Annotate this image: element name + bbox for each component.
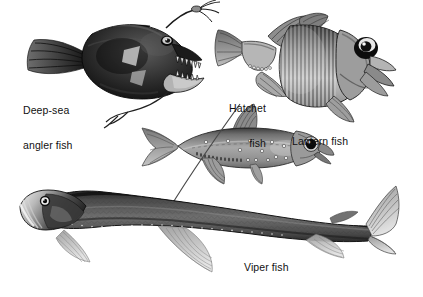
label-angler-line-2: angler fish <box>23 140 73 152</box>
hatchet-peduncle <box>242 41 276 70</box>
label-lantern-fish: Lantern fish <box>292 113 348 171</box>
angler-eye <box>161 36 173 46</box>
angler-illicium-lure <box>166 0 220 28</box>
label-hatchet-line-1: Hatchet <box>212 103 266 115</box>
label-viper-line-1: Viper fish <box>244 262 289 274</box>
lantern-caudal-fin <box>142 128 178 166</box>
hatchet-eye <box>354 37 378 59</box>
deep-sea-fish-figure: Deep-sea angler fish Hatchet fish Lanter… <box>0 0 423 297</box>
label-hatchet-line-2: fish <box>212 138 266 150</box>
label-hatchet-fish: Hatchet fish <box>212 80 266 172</box>
viper-pectoral-fin <box>56 230 90 262</box>
hatchet-caudal-fin <box>215 30 244 66</box>
viper-pelvic-fin <box>158 226 212 272</box>
viper-eye <box>40 196 50 206</box>
angler-caudal-fin <box>27 40 84 74</box>
viper-caudal-fin <box>366 186 399 254</box>
label-lantern-line-1: Lantern fish <box>292 136 348 148</box>
label-deep-sea-angler-fish: Deep-sea angler fish <box>23 82 73 174</box>
label-viper-fish: Viper fish <box>244 239 289 297</box>
label-angler-line-1: Deep-sea <box>23 105 73 117</box>
viper-adipose-fin <box>330 211 358 223</box>
